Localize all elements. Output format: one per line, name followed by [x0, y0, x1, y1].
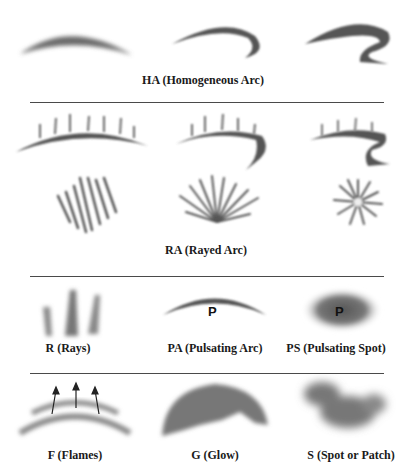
rayed-arc-icon: [16, 114, 148, 152]
aurora-classification-diagram: P P HA (Homogeneo: [0, 0, 407, 473]
label-flames: F (Flames): [48, 448, 103, 463]
rayed-fan-icon: [180, 176, 258, 222]
label-glow: G (Glow): [191, 448, 239, 463]
flames-icon: [20, 383, 130, 433]
rayed-band-oblique-icon: [58, 178, 116, 232]
label-rays: R (Rays): [46, 341, 91, 356]
rayed-arc-folded-icon: [176, 114, 266, 170]
homogeneous-arc-double-fold-icon: [305, 24, 390, 64]
label-pulsating-arc: PA (Pulsating Arc): [168, 341, 263, 356]
pulsating-arc-icon: P: [163, 299, 266, 320]
aurora-illustrations: P P: [0, 0, 407, 473]
label-spot-or-patch: S (Spot or Patch): [307, 448, 394, 463]
section-divider: [30, 102, 384, 103]
pulsating-spot-icon: P: [302, 288, 382, 332]
spot-or-patch-icon: [304, 382, 386, 428]
homogeneous-arc-icon: [20, 36, 132, 55]
section-divider: [30, 276, 384, 277]
homogeneous-arc-folded-icon: [172, 27, 260, 58]
rays-icon: [43, 290, 100, 336]
corona-icon: [334, 180, 382, 224]
label-homogeneous-arc: HA (Homogeneous Arc): [142, 73, 264, 88]
pulsating-mark: P: [208, 304, 217, 319]
rayed-arc-double-fold-icon: [310, 118, 390, 166]
pulsating-mark: P: [335, 304, 344, 319]
label-rayed-arc: RA (Rayed Arc): [165, 243, 247, 258]
section-divider: [30, 373, 384, 374]
glow-icon: [162, 384, 268, 436]
label-pulsating-spot: PS (Pulsating Spot): [286, 341, 385, 356]
